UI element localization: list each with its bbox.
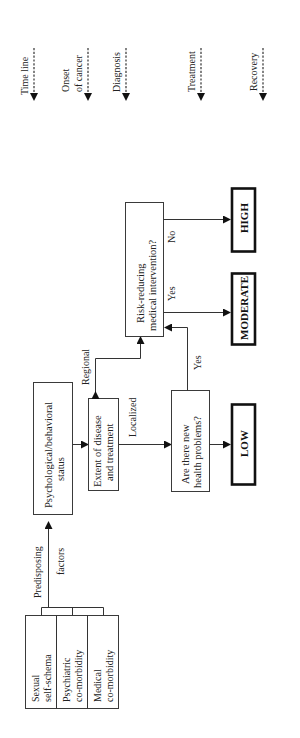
node-risk-reducing-intervention: Risk-reducing medical intervention?	[126, 203, 164, 337]
edge-label-regional: Regional	[80, 349, 91, 385]
timeline-label: of cancer	[73, 54, 84, 92]
edge-label-yes-risk: Yes	[166, 286, 177, 301]
svg-text:HIGH: HIGH	[238, 203, 250, 233]
risk-flow-diagram: Time line Onset of cancer Diagnosis Trea…	[0, 0, 300, 738]
arrow-down-icon	[197, 93, 205, 101]
timeline-label: Recovery	[248, 53, 259, 91]
svg-text:Extent of disease: Extent of disease	[92, 415, 103, 487]
svg-text:status: status	[55, 457, 66, 481]
timeline: Time line Onset of cancer Diagnosis Trea…	[19, 48, 267, 101]
svg-text:co-morbidity: co-morbidity	[104, 650, 115, 702]
edge-regional	[96, 337, 141, 399]
timeline-label: Treatment	[186, 51, 197, 92]
timeline-item-diagnosis: Diagnosis	[111, 48, 130, 101]
outcome-moderate: MODERATE	[232, 274, 255, 345]
svg-text:Are there new: Are there new	[180, 424, 191, 484]
arrow-up-icon	[92, 391, 100, 399]
svg-text:Risk-reducing: Risk-reducing	[135, 263, 146, 323]
edge-label-predisposing: Predisposing	[32, 546, 43, 598]
arrow-down-icon	[122, 93, 130, 101]
svg-text:health problems?: health problems?	[192, 416, 203, 488]
edge-label-yes-health: Yes	[192, 355, 203, 370]
arrow-down-icon	[84, 93, 92, 101]
edge-health-yes	[165, 328, 188, 391]
timeline-label: Time line	[19, 56, 30, 95]
svg-text:Medical: Medical	[92, 669, 103, 702]
svg-text:co-morbidity: co-morbidity	[73, 650, 84, 702]
node-psych-status: Psychological/behavioral status	[34, 383, 73, 515]
svg-text:Psychological/behavioral: Psychological/behavioral	[43, 402, 54, 508]
svg-text:self-schema: self-schema	[42, 654, 53, 702]
timeline-item-recovery: Recovery	[248, 48, 267, 101]
outcome-high: HIGH	[232, 189, 255, 252]
edge-label-factors: factors	[55, 548, 66, 575]
svg-text:MODERATE: MODERATE	[238, 276, 250, 340]
timeline-label: Diagnosis	[111, 52, 122, 92]
predisposing-factors-group: Sexual self-schema Psychiatric co-morbid…	[26, 522, 119, 709]
timeline-item-onset: Onset of cancer	[60, 48, 92, 101]
svg-text:LOW: LOW	[238, 430, 250, 457]
svg-text:medical intervention?: medical intervention?	[147, 239, 158, 331]
svg-text:Psychiatric: Psychiatric	[61, 657, 72, 702]
node-new-health-problems: Are there new health problems?	[172, 391, 210, 492]
timeline-label: Onset	[60, 68, 71, 92]
timeline-item-time-line: Time line	[19, 48, 38, 101]
edge-label-no: No	[166, 231, 177, 243]
arrow-down-icon	[259, 93, 267, 101]
node-extent-of-disease: Extent of disease and treatment	[89, 399, 119, 491]
arrow-down-icon	[30, 93, 38, 101]
outcome-low: LOW	[232, 405, 255, 485]
factor-psychiatric-comorbidity: Psychiatric co-morbidity	[61, 650, 84, 702]
svg-text:Sexual: Sexual	[30, 675, 41, 702]
timeline-item-treatment: Treatment	[186, 48, 205, 101]
edge-label-localized: Localized	[127, 398, 138, 437]
svg-text:and treatment: and treatment	[104, 423, 115, 481]
